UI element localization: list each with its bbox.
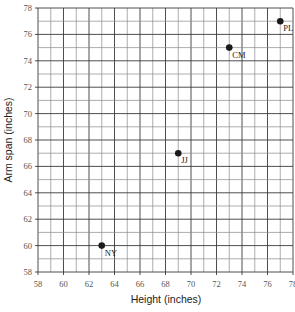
y-tick-label: 60 [24,241,33,251]
x-tick-label: 66 [136,279,145,289]
x-tick-label: 64 [110,279,119,289]
y-axis-label: Arm span (inches) [2,97,14,182]
plot-grid [35,8,293,275]
x-tick-label: 78 [289,279,295,289]
y-tick-label: 64 [24,188,33,198]
y-tick-label: 66 [24,161,33,171]
point-label: NY [105,248,117,258]
x-tick-label: 62 [85,279,94,289]
y-tick-label: 72 [24,82,33,92]
point-label: JJ [181,155,188,165]
x-tick-label: 74 [238,279,247,289]
x-tick-label: 70 [187,279,196,289]
x-axis-label: Height (inches) [131,293,202,305]
y-tick-label: 62 [24,214,33,224]
point-label: CM [232,50,246,60]
y-tick-label: 76 [24,29,33,39]
y-tick-label: 68 [24,135,33,145]
x-tick-label: 60 [59,279,68,289]
point-label: PL [283,23,293,33]
y-tick-label: 74 [24,56,33,66]
x-tick-label: 76 [263,279,272,289]
y-tick-label: 70 [24,109,33,119]
x-tick-label: 72 [212,279,221,289]
y-axis-ticks: 5860626466687072747678 [24,3,33,277]
x-axis-ticks: 5860626466687072747678 [34,279,295,289]
data-point: PL [277,18,293,33]
scatter-chart: 5860626466687072747678 58606264666870727… [0,0,295,312]
data-point: JJ [175,150,189,165]
data-points: NYJJCMPL [98,18,293,258]
x-tick-label: 58 [34,279,43,289]
y-tick-label: 78 [24,3,33,13]
y-tick-label: 58 [24,267,33,277]
x-tick-label: 68 [161,279,170,289]
